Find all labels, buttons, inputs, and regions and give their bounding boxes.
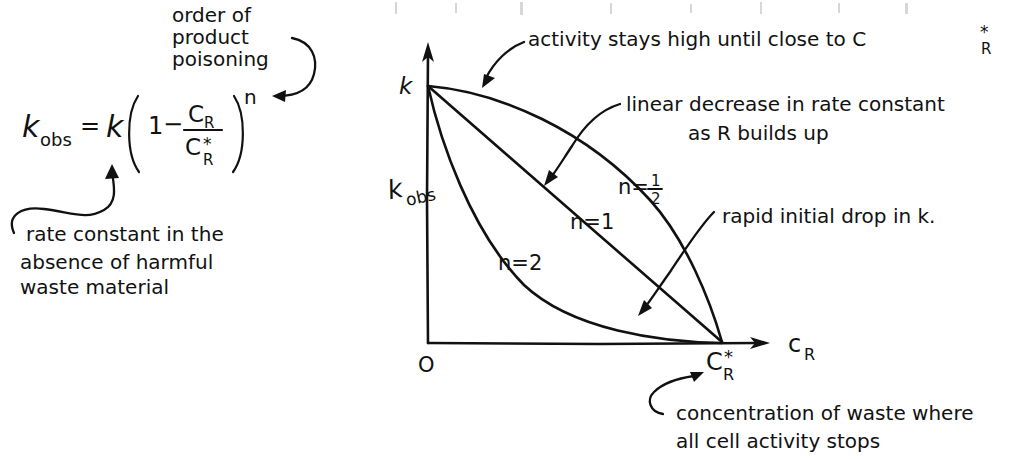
x-axis-label-subscript: R [804, 345, 815, 364]
x-intercept-star: * [724, 346, 733, 367]
linear-decrease-line-2: as R builds up [688, 121, 829, 145]
x-intercept-label: C [706, 348, 723, 376]
clipped-top-text [395, 2, 908, 15]
order-poisoning-leader-line [278, 38, 315, 96]
y-axis-label-group: k obs [385, 166, 438, 213]
order-of-product-poisoning-line-2: product [172, 25, 249, 49]
y-axis-label-subscript: obs [404, 184, 438, 210]
curve-label-n-half-numerator: 1 [651, 172, 661, 190]
annotation-linear-decrease: linear decrease in rate constant as R bu… [544, 92, 945, 186]
handwritten-kinetics-figure: order of product poisoning k obs = k 1 −… [0, 0, 1031, 459]
concentration-of-waste-line-2: all cell activity stops [676, 429, 880, 453]
activity-stays-high-leader-line [486, 42, 524, 78]
activity-stays-high-star: * [980, 22, 989, 42]
equation-denominator-subscript: R [203, 151, 213, 169]
equation-paren-open [129, 96, 139, 172]
diagram-canvas: order of product poisoning k obs = k 1 −… [0, 0, 1031, 459]
rapid-initial-drop-text: rapid initial drop in k. [722, 204, 935, 228]
equation-equals: = [80, 112, 100, 140]
equation-exponent-n: n [244, 85, 257, 109]
x-intercept-label-group: C * R [706, 346, 734, 384]
x-axis-label: c [788, 330, 801, 358]
curve-label-n-2: n=2 [498, 251, 542, 275]
equation-k-obs: k obs = k 1 − C R C * R n [22, 85, 257, 172]
equation-one: 1 [148, 112, 163, 140]
annotation-rapid-initial-drop: rapid initial drop in k. [638, 204, 935, 316]
annotation-concentration-of-waste: concentration of waste where all cell ac… [650, 372, 974, 453]
annotation-rate-constant-absence: rate constant in the absence of harmful … [12, 164, 224, 299]
annotation-activity-stays-high: activity stays high until close to C R * [482, 22, 991, 88]
y-axis-label: k [385, 173, 407, 206]
rate-constant-absence-line-1: rate constant in the [26, 222, 224, 246]
order-poisoning-arrowhead [272, 90, 286, 102]
equation-denominator-C: C [185, 134, 201, 160]
rate-constant-arrowhead [105, 164, 119, 179]
equation-minus: − [163, 110, 183, 138]
linear-decrease-line-1: linear decrease in rate constant [626, 92, 945, 116]
rate-constant-absence-line-2: absence of harmful [20, 250, 213, 274]
activity-stays-high-subscript: R [981, 40, 991, 58]
curve-label-n-half-prefix: n= [618, 175, 649, 199]
curve-label-n-half: n= 1 2 [618, 172, 662, 208]
equation-lhs-subscript: obs [40, 129, 72, 150]
activity-stays-high-text: activity stays high until close to C [528, 27, 866, 51]
origin-label: O [418, 353, 435, 377]
equation-prefactor-k: k [106, 109, 125, 144]
equation-paren-close [233, 96, 243, 172]
equation-numerator-C: C [188, 101, 204, 127]
y-axis-top-tick-label: k [399, 73, 414, 99]
order-of-product-poisoning-line-3: poisoning [172, 47, 269, 71]
x-intercept-subscript: R [723, 365, 734, 384]
linear-decrease-leader-line [552, 104, 620, 176]
order-of-product-poisoning-line-1: order of [172, 3, 252, 27]
curve-label-n-half-denominator: 2 [651, 190, 661, 208]
curve-label-n-1: n=1 [570, 210, 614, 234]
equation-lhs-k: k [22, 109, 41, 144]
concentration-of-waste-line-1: concentration of waste where [676, 401, 973, 425]
activity-stays-high-arrowhead [482, 74, 495, 88]
concentration-of-waste-arrowhead [690, 372, 704, 382]
rate-constant-absence-line-3: waste material [20, 275, 169, 299]
